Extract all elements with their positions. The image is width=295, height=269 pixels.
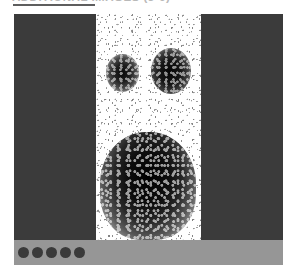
- left-blank-panel: [14, 14, 96, 240]
- heading-underline: [13, 4, 95, 6]
- pagination-bar: [14, 240, 283, 265]
- center-scan-panel: [96, 14, 201, 240]
- upper-right-uptake-region: [151, 48, 191, 94]
- page-dot-3[interactable]: [46, 247, 57, 258]
- page-dot-5[interactable]: [74, 247, 85, 258]
- page-title: ADDITIONAL IMAGES (3-6): [12, 0, 170, 3]
- page-dot-1[interactable]: [18, 247, 29, 258]
- lower-central-uptake-region: [100, 132, 196, 240]
- page-dot-4[interactable]: [60, 247, 71, 258]
- page-dot-2[interactable]: [32, 247, 43, 258]
- page-root: ADDITIONAL IMAGES (3-6): [0, 0, 295, 269]
- section-heading: ADDITIONAL IMAGES (3-6): [0, 0, 295, 13]
- figure-image-strip: [14, 14, 283, 240]
- right-blank-panel: [201, 14, 283, 240]
- upper-left-uptake-region: [106, 54, 139, 92]
